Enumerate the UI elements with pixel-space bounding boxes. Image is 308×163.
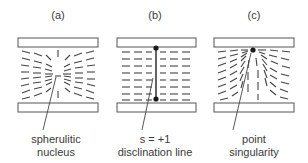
panel-a: (a) spherulitic nucleus: [18, 9, 98, 158]
panel-a-label: (a): [51, 9, 64, 21]
panel-a-top-plate: [18, 38, 98, 47]
panel-c-director-field: [218, 50, 290, 100]
panel-b: (b) s = +1 disclination line: [117, 9, 196, 158]
panel-b-bottom-plate: [117, 103, 196, 112]
panel-c-point-singularity: [250, 47, 255, 52]
panel-c-label: (c): [248, 9, 261, 21]
panel-a-bottom-plate: [18, 103, 98, 112]
defect-diagram: (a) spherulitic nucleus: [0, 0, 308, 163]
panel-b-caption-line1: s = +1: [140, 133, 171, 145]
panel-a-caption-line2: nucleus: [37, 146, 75, 158]
panel-b-label: (b): [148, 9, 161, 21]
panel-a-director-field: [21, 50, 95, 99]
panel-b-bottom-endpoint: [153, 96, 158, 101]
panel-b-top-endpoint: [153, 45, 158, 50]
panel-c: (c) point singularity: [214, 9, 294, 158]
panel-c-top-plate: [214, 38, 294, 47]
panel-c-bottom-plate: [214, 103, 294, 112]
panel-a-caption-line1: spherulitic: [31, 133, 81, 145]
panel-c-caption-line1: point: [242, 133, 266, 145]
panel-b-caption-line2: disclination line: [118, 146, 193, 158]
panel-c-caption-line2: singularity: [229, 146, 279, 158]
